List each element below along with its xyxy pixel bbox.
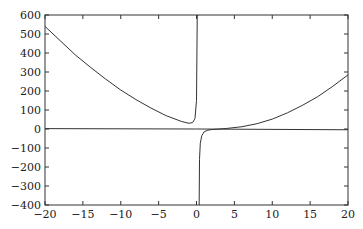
x-tick-label: −10 bbox=[109, 208, 132, 221]
series-line bbox=[199, 75, 348, 205]
x-axis: −20−15−10−505101520 bbox=[33, 15, 355, 221]
x-tick-label: 15 bbox=[303, 208, 317, 221]
y-tick-label: −300 bbox=[11, 180, 41, 193]
y-tick-label: 500 bbox=[20, 28, 41, 41]
y-axis: −400−300−200−1000100200300400500600 bbox=[11, 9, 348, 212]
y-tick-label: −200 bbox=[11, 161, 41, 174]
y-tick-label: 400 bbox=[20, 47, 41, 60]
line-chart: −20−15−10−505101520 −400−300−200−1000100… bbox=[0, 0, 363, 229]
y-tick-label: 0 bbox=[34, 123, 41, 136]
y-tick-label: 200 bbox=[20, 85, 41, 98]
x-tick-label: −15 bbox=[71, 208, 94, 221]
y-tick-label: 100 bbox=[20, 104, 41, 117]
series-line bbox=[45, 15, 199, 123]
y-tick-label: −400 bbox=[11, 199, 41, 212]
x-tick-label: 10 bbox=[265, 208, 279, 221]
x-tick-label: 0 bbox=[193, 208, 200, 221]
series-layer bbox=[45, 15, 348, 205]
y-tick-label: 300 bbox=[20, 66, 41, 79]
series-line bbox=[45, 129, 348, 130]
x-tick-label: −5 bbox=[151, 208, 167, 221]
y-tick-label: 600 bbox=[20, 9, 41, 22]
plot-frame bbox=[45, 15, 348, 205]
x-tick-label: 20 bbox=[341, 208, 355, 221]
x-tick-label: 5 bbox=[231, 208, 238, 221]
y-tick-label: −100 bbox=[11, 142, 41, 155]
